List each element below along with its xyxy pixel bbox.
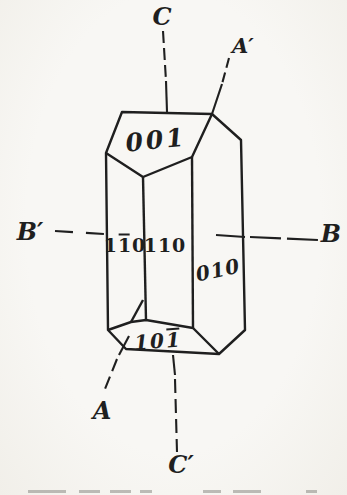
a-prime-axis-dashed bbox=[222, 58, 229, 84]
a-axis-solid bbox=[119, 336, 129, 355]
prism-edge-right bbox=[192, 157, 193, 328]
face-label-1-1bar-0: 110 bbox=[104, 236, 147, 255]
b-axis-dashed bbox=[250, 237, 318, 240]
a-axis-label: A bbox=[93, 399, 112, 423]
digit: 10 bbox=[133, 328, 166, 354]
b-prime-axis-dashed bbox=[55, 231, 105, 234]
c-prime-axis-solid bbox=[173, 355, 175, 375]
c-prime-axis-dashed bbox=[175, 379, 177, 452]
cropped-caption-mark bbox=[203, 490, 221, 493]
digit: 1 bbox=[104, 234, 118, 256]
b-axis-solid bbox=[216, 235, 245, 237]
cropped-caption-mark bbox=[233, 490, 261, 493]
crystal-axes-figure: C A′ B′ B A C′ 001 110 110 010 101 bbox=[0, 0, 347, 495]
a-prime-axis-label: A′ bbox=[232, 35, 254, 56]
c-axis-label: C bbox=[152, 5, 171, 29]
face-label-10-1bar: 101 bbox=[133, 329, 182, 352]
a-axis-dashed bbox=[103, 359, 117, 394]
bottom-sliver-facet-edge bbox=[131, 300, 143, 322]
barred-digit: 1 bbox=[118, 236, 132, 255]
b-axis-label: B bbox=[321, 222, 341, 246]
c-axis-dashed bbox=[163, 31, 166, 81]
c-prime-axis-label: C′ bbox=[168, 453, 193, 477]
a-prime-axis-solid bbox=[212, 84, 222, 114]
c-axis-solid bbox=[166, 81, 167, 112]
face-label-001: 001 bbox=[124, 124, 187, 155]
cropped-caption-mark bbox=[306, 490, 317, 493]
b-prime-axis-label: B′ bbox=[17, 220, 44, 244]
cropped-caption-mark bbox=[79, 490, 100, 493]
cropped-caption-mark bbox=[110, 490, 131, 493]
barred-digit: 1 bbox=[165, 329, 182, 350]
cropped-caption-mark bbox=[140, 490, 152, 493]
face-label-110: 110 bbox=[144, 236, 187, 255]
cropped-caption-mark bbox=[28, 490, 66, 493]
